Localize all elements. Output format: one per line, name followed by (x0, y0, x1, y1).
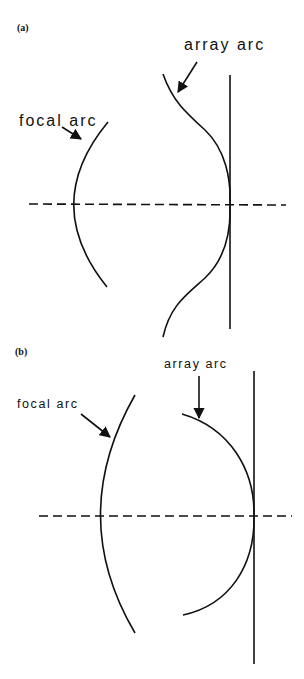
focal-arc-arrow-b (81, 414, 110, 437)
panel-a-label: (a) (17, 22, 29, 34)
array-arc-arrow-a (178, 62, 197, 92)
panel-b-label: (b) (15, 346, 27, 358)
panel-a: (a) array arc focal arc (17, 22, 286, 337)
focal-arc-label-b: focal arc (17, 397, 79, 411)
optical-axis-a (29, 204, 286, 205)
figure-canvas: (a) array arc focal arc (b) array arc fo… (0, 0, 304, 679)
focal-arc-label-a: focal arc (19, 112, 97, 129)
array-arc-label-b: array arc (164, 357, 228, 371)
focal-arc-b (101, 395, 136, 633)
panel-b: (b) array arc focal arc (15, 346, 292, 664)
array-arc-label-a: array arc (184, 36, 265, 53)
array-arc-b (182, 414, 254, 615)
array-arc-a (163, 74, 230, 337)
